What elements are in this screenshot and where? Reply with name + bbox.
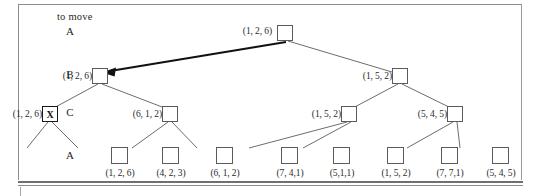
row-label-a-bottom: A [62, 149, 78, 161]
to-move-caption: to move [57, 11, 93, 22]
node-b-right-label: (1, 5, 2) [332, 71, 392, 81]
node-root[interactable] [277, 25, 293, 41]
node-leaf-8[interactable] [492, 147, 509, 164]
edge-c4-to-leaf8 [457, 122, 460, 148]
edge-root-to-b-right [288, 41, 392, 72]
node-leaf-7[interactable] [441, 147, 458, 164]
leaf-4-label: (7, 4,1) [260, 168, 320, 178]
node-c2[interactable] [162, 106, 178, 122]
node-b-left[interactable] [92, 68, 108, 84]
node-c2-label: (6, 1, 2) [102, 109, 162, 119]
node-b-right[interactable] [392, 68, 408, 84]
leaf-3-label: (6, 1, 2) [195, 168, 255, 178]
leaf-2-label: (4, 2, 3) [141, 168, 201, 178]
node-c3[interactable] [341, 106, 357, 122]
node-c4[interactable] [447, 106, 463, 122]
root-node-label: (1, 2, 6) [212, 26, 272, 36]
row-label-c: C [62, 106, 78, 118]
node-c1-label: (1, 2, 6) [0, 109, 42, 119]
edge-c1-to-leaf2 [52, 122, 78, 148]
node-b-left-label: (1, 2, 6) [32, 71, 92, 81]
edge-c2-to-leaf3 [132, 122, 168, 148]
edge-c3-to-leaf6 [303, 122, 351, 148]
node-leaf-4[interactable] [281, 147, 298, 164]
edge-c2-to-leaf4 [172, 122, 197, 148]
node-leaf-1[interactable] [111, 147, 128, 164]
node-c3-label: (1, 5, 2) [281, 109, 341, 119]
edge-root-to-b-left-highlighted [110, 42, 286, 71]
leaf-6-label: (1, 5, 2) [366, 168, 426, 178]
row-label-a-top: A [62, 25, 78, 37]
edge-c4-to-leaf7 [407, 122, 453, 148]
edge-c1-to-leaf1 [27, 122, 48, 148]
node-c1-marked[interactable]: X [42, 106, 58, 122]
x-mark-icon: X [43, 109, 57, 120]
leaf-5-label: (5,1,1) [312, 168, 372, 178]
edge-bleft-to-c2 [102, 84, 170, 110]
node-leaf-3[interactable] [216, 147, 233, 164]
node-leaf-2[interactable] [162, 147, 179, 164]
node-leaf-5[interactable] [333, 147, 350, 164]
node-c4-label: (5, 4, 5) [387, 109, 447, 119]
game-tree-figure: to move A B C A (1, 2, 6) (1, 2, 6) (1, … [0, 0, 533, 196]
leaf-8-label: (5, 4, 5) [471, 168, 531, 178]
edge-c3-to-leaf5 [249, 122, 347, 148]
node-leaf-6[interactable] [387, 147, 404, 164]
